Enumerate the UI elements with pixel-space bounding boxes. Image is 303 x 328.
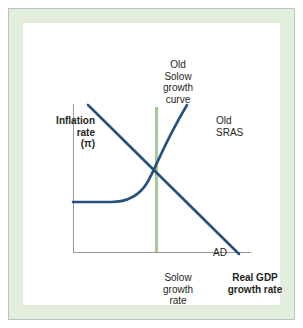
figure-canvas: Inflation rate (π) Old Solow growth curv… <box>23 23 280 305</box>
figure-frame: Inflation rate (π) Old Solow growth curv… <box>8 8 295 320</box>
ad-curve-label: AD <box>213 247 241 259</box>
x-axis-label: Real GDP growth rate <box>215 272 295 295</box>
x-axis-tick-label-solow-growth-rate: Solow growth rate <box>143 272 213 307</box>
sras-curve-label: Old SRAS <box>216 115 270 138</box>
solow-growth-curve-label: Old Solow growth curve <box>143 59 213 105</box>
y-axis-label: Inflation rate (π) <box>29 115 95 150</box>
